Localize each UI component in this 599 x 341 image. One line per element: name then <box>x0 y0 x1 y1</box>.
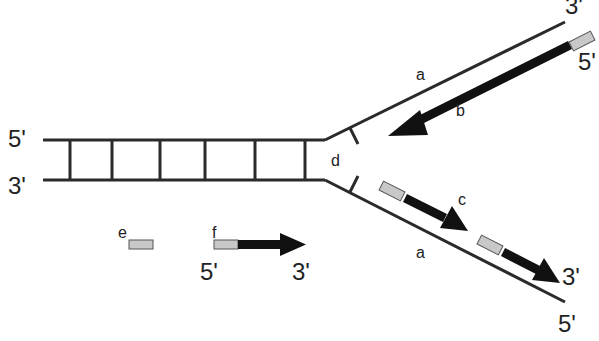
replication-fork-diagram: 5' 3' 3' 5' a b d c a 3' 5' e f 5' 3' <box>0 0 599 341</box>
label-5prime-upper: 5' <box>578 48 596 75</box>
template-strand-lower <box>325 176 565 302</box>
double-helix-ladder <box>43 140 325 180</box>
label-f: f <box>212 224 217 241</box>
legend-arrow-f <box>214 233 306 256</box>
okazaki-fragment-1 <box>379 181 468 231</box>
label-e: e <box>118 224 127 241</box>
label-5prime-left: 5' <box>8 125 26 152</box>
primer-e <box>129 240 153 249</box>
label-3prime-left: 3' <box>8 172 26 199</box>
okazaki-fragment-2 <box>477 235 560 283</box>
label-legend-3prime: 3' <box>292 258 310 285</box>
leading-strand-arrow <box>388 31 595 136</box>
label-5prime-lower: 5' <box>558 310 576 337</box>
diagram-canvas: 5' 3' 3' 5' a b d c a 3' 5' e f 5' 3' <box>0 0 599 341</box>
label-c: c <box>458 191 466 208</box>
label-a-lower: a <box>416 244 425 261</box>
label-b: b <box>456 102 465 119</box>
label-d: d <box>331 152 340 169</box>
label-3prime-lower: 3' <box>562 263 580 290</box>
label-legend-5prime: 5' <box>200 258 218 285</box>
template-strand-upper <box>325 22 565 144</box>
label-a-upper: a <box>416 66 425 83</box>
label-3prime-upper: 3' <box>565 0 583 19</box>
